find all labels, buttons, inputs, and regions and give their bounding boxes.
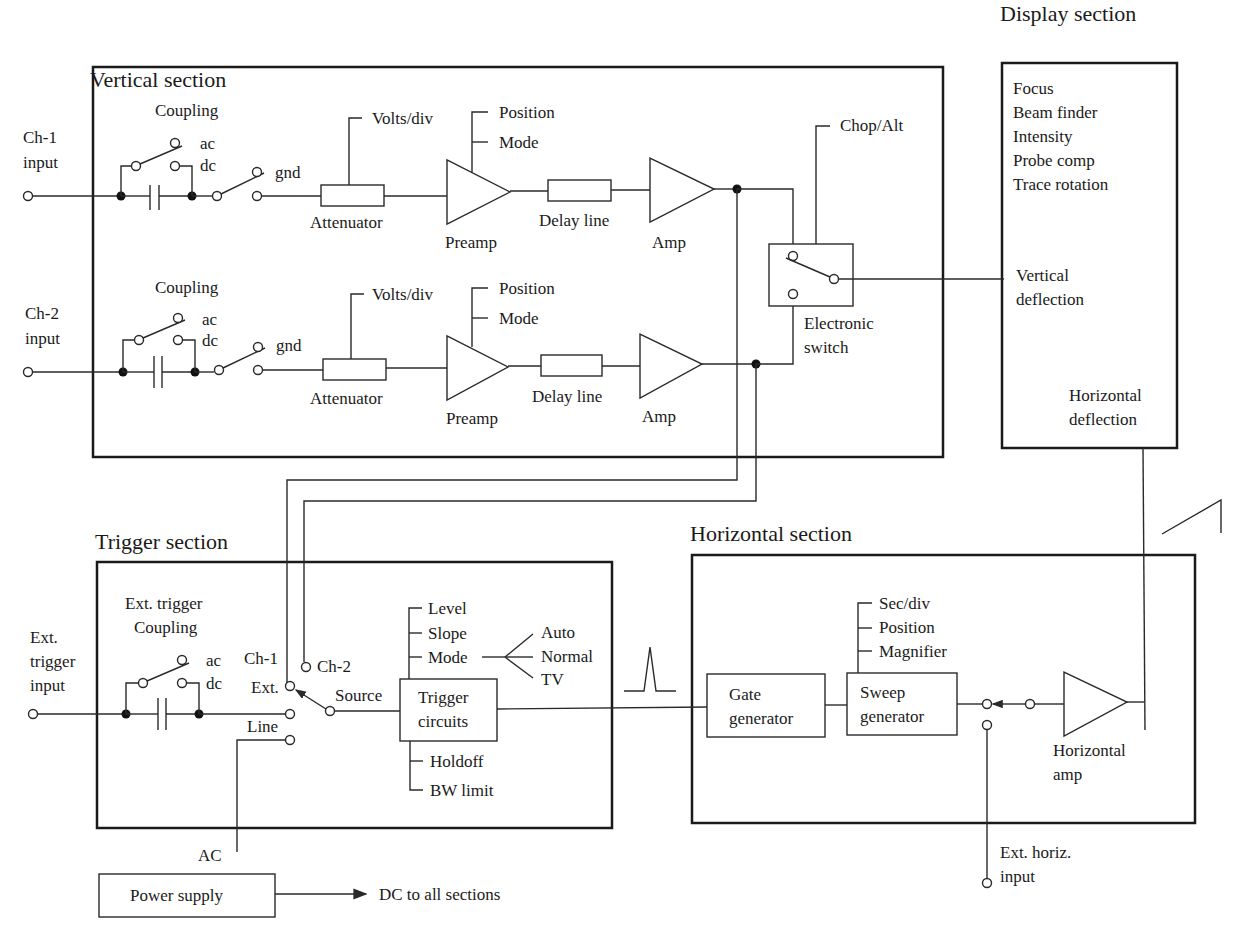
ch1-gnd-label: gnd bbox=[275, 163, 301, 182]
ch1-amp-triangle bbox=[650, 158, 714, 222]
power-supply-label: Power supply bbox=[130, 886, 224, 905]
sweep-generator-label-2: generator bbox=[860, 707, 925, 726]
trigger-holdoff-label: Holdoff bbox=[430, 752, 484, 771]
electronic-switch-label-1: Electronic bbox=[804, 314, 874, 333]
ac-label: AC bbox=[198, 846, 222, 865]
horizontal-amp-triangle bbox=[1064, 672, 1127, 736]
ch2-preamp-label: Preamp bbox=[446, 409, 498, 428]
trigger-mode-tv: TV bbox=[541, 670, 564, 689]
vertical-section-title: Vertical section bbox=[90, 67, 226, 92]
ext-horiz-input-label-1: Ext. horiz. bbox=[1000, 843, 1071, 862]
horizontal-section-title: Horizontal section bbox=[690, 521, 852, 546]
ch2-preamp-triangle bbox=[447, 336, 508, 400]
oscilloscope-block-diagram: Vertical section Display section Trigger… bbox=[0, 0, 1244, 937]
ch1-input-label-2: input bbox=[23, 153, 58, 172]
ch2-attenuator-label: Attenuator bbox=[310, 389, 383, 408]
ch1-coupling-ac: ac bbox=[200, 134, 216, 153]
gate-generator-label-1: Gate bbox=[729, 685, 761, 704]
ch1-delay-line-box bbox=[548, 180, 611, 201]
trigger-pickoff-wires bbox=[287, 189, 756, 688]
display-section: Display section bbox=[1000, 1, 1177, 448]
ch1-preamp-label: Preamp bbox=[445, 233, 497, 252]
trigger-mode-auto: Auto bbox=[541, 623, 575, 642]
trigger-section: Trigger section bbox=[95, 529, 612, 828]
ch1-trigger-pickoff bbox=[287, 189, 737, 688]
ch1-coupling-dc: dc bbox=[200, 156, 217, 175]
magnifier-label: Magnifier bbox=[879, 642, 947, 661]
horizontal-section: Horizontal section bbox=[690, 521, 1195, 823]
ch1-mode-label: Mode bbox=[499, 133, 539, 152]
chop-alt-label: Chop/Alt bbox=[840, 116, 904, 135]
ch1-attenuator-label: Attenuator bbox=[310, 213, 383, 232]
dc-output-label: DC to all sections bbox=[379, 885, 500, 904]
horizontal-contents: Gate generator Sweep generator Sec/div P… bbox=[707, 448, 1221, 888]
ch2-volts-div-label: Volts/div bbox=[372, 285, 434, 304]
ch1-preamp-triangle bbox=[447, 160, 510, 224]
ch2-position-label: Position bbox=[499, 279, 555, 298]
horizontal-position-label: Position bbox=[879, 618, 935, 637]
display-control-focus: Focus bbox=[1013, 79, 1054, 98]
trigger-circuits-label-1: Trigger bbox=[418, 688, 469, 707]
ext-trigger-coupling-dc: dc bbox=[206, 674, 223, 693]
ch2-delay-line-box bbox=[541, 355, 602, 376]
display-control-trace-rotation: Trace rotation bbox=[1013, 175, 1109, 194]
ch1-position-label: Position bbox=[499, 103, 555, 122]
sawtooth-icon bbox=[1162, 500, 1221, 534]
horizontal-deflection-label-2: deflection bbox=[1069, 410, 1137, 429]
trigger-pulse-icon bbox=[624, 647, 676, 691]
ch2-amp-triangle bbox=[640, 334, 702, 398]
ch2-coupling-dc: dc bbox=[202, 331, 219, 350]
trigger-level-label: Level bbox=[428, 599, 467, 618]
horizontal-amp-label-1: Horizontal bbox=[1053, 741, 1126, 760]
ch2-attenuator-box bbox=[323, 359, 386, 380]
gate-generator-label-2: generator bbox=[729, 709, 794, 728]
sec-div-label: Sec/div bbox=[879, 594, 930, 613]
horizontal-amp-label-2: amp bbox=[1053, 765, 1082, 784]
horiz-select-sweep-terminal bbox=[983, 700, 992, 709]
ch2-input-terminal bbox=[24, 368, 33, 377]
source-selector-arm bbox=[296, 690, 326, 709]
trigger-mode-label: Mode bbox=[428, 648, 468, 667]
display-control-beam-finder: Beam finder bbox=[1013, 103, 1098, 122]
source-ext-terminal bbox=[286, 710, 295, 719]
ch1-volts-div-label: Volts/div bbox=[372, 109, 434, 128]
ch1-attenuator-box bbox=[321, 185, 384, 206]
display-controls: Focus Beam finder Intensity Probe comp T… bbox=[1013, 79, 1142, 429]
ch2-mode-label: Mode bbox=[499, 309, 539, 328]
ext-trigger-coupling-ac: ac bbox=[206, 651, 222, 670]
ch2-coupling-ac: ac bbox=[202, 310, 218, 329]
ch2-input-label-2: input bbox=[25, 329, 60, 348]
horizontal-deflection-wire bbox=[1143, 448, 1145, 730]
ch1-amp-label: Amp bbox=[652, 233, 686, 252]
trigger-slope-label: Slope bbox=[428, 624, 467, 643]
sweep-generator-label-1: Sweep bbox=[860, 683, 905, 702]
ch1-input-terminal bbox=[24, 192, 33, 201]
trigger-mode-normal: Normal bbox=[541, 647, 593, 666]
display-control-probe-comp: Probe comp bbox=[1013, 151, 1095, 170]
ch2-coupling-label: Coupling bbox=[155, 278, 219, 297]
vertical-deflection-label-1: Vertical bbox=[1016, 266, 1069, 285]
source-ext-label: Ext. bbox=[251, 678, 279, 697]
electronic-switch-label-2: switch bbox=[804, 338, 849, 357]
source-ch2-terminal bbox=[302, 663, 311, 672]
ch1-delay-line-label: Delay line bbox=[539, 211, 609, 230]
ch1-input-label-1: Ch-1 bbox=[23, 128, 57, 147]
ext-trigger-terminal bbox=[29, 710, 38, 719]
channel-2-path: Ch-2 input Coupling ac dc gnd Volts/div … bbox=[24, 278, 794, 428]
electronic-switch-box bbox=[769, 244, 853, 306]
trigger-to-gate-wire bbox=[497, 707, 708, 709]
trigger-contents: Ext. trigger input Ext. trigger Coupling… bbox=[29, 594, 709, 852]
horiz-select-ext-terminal bbox=[983, 721, 992, 730]
ext-horiz-input-label-2: input bbox=[1000, 867, 1035, 886]
trigger-circuits-label-2: circuits bbox=[418, 712, 468, 731]
vertical-deflection-label-2: deflection bbox=[1016, 290, 1084, 309]
ch2-delay-line-label: Delay line bbox=[532, 387, 602, 406]
ch2-input-label-1: Ch-2 bbox=[25, 304, 59, 323]
source-ch1-terminal bbox=[286, 682, 295, 691]
display-control-intensity: Intensity bbox=[1013, 127, 1073, 146]
ext-trigger-input-label-3: input bbox=[30, 676, 65, 695]
power-supply: AC Power supply DC to all sections bbox=[99, 846, 500, 917]
ext-trigger-input-label-2: trigger bbox=[30, 652, 76, 671]
channel-1-path: Ch-1 input Coupling ac dc gnd Volts/div … bbox=[23, 101, 793, 252]
ch2-amp-label: Amp bbox=[642, 407, 676, 426]
